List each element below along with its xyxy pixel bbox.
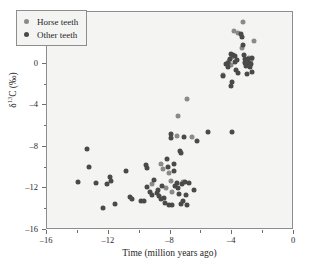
- legend-item-horse-teeth: Horse teeth: [22, 15, 78, 28]
- y-tick-label: –8: [30, 141, 39, 151]
- x-tick-minor: [200, 230, 201, 233]
- x-axis-title: Time (million years ago): [46, 248, 293, 258]
- x-tick-label: –12: [101, 235, 114, 245]
- data-point: [250, 70, 255, 75]
- data-point: [170, 203, 175, 208]
- x-tick-minor: [262, 230, 263, 233]
- legend-marker-icon: [24, 19, 29, 24]
- y-axis-title: δ13C (‰): [6, 40, 18, 140]
- data-point: [220, 74, 225, 79]
- legend-marker-icon: [24, 32, 29, 37]
- data-point: [165, 157, 170, 162]
- data-point: [85, 147, 90, 152]
- data-point: [160, 184, 165, 189]
- data-point: [248, 61, 253, 66]
- y-tick-label: –4: [30, 99, 39, 109]
- data-point: [170, 189, 175, 194]
- x-tick: [293, 230, 294, 234]
- x-tick-label: –4: [227, 235, 236, 245]
- y-tick: [42, 146, 46, 147]
- data-point: [234, 57, 239, 62]
- data-point: [185, 203, 190, 208]
- y-tick-label: 0: [34, 58, 38, 68]
- data-point: [187, 181, 192, 186]
- data-point: [160, 166, 165, 171]
- data-point: [166, 164, 171, 169]
- data-point: [171, 168, 176, 173]
- data-point: [194, 138, 199, 143]
- data-point: [174, 133, 179, 138]
- legend: Horse teeth Other teeth: [16, 10, 87, 46]
- data-point: [178, 151, 183, 156]
- y-tick-minor: [44, 208, 47, 209]
- scatter-plot-figure: –16–12–8–40 40–4–8–12–16 Time (million y…: [0, 0, 311, 270]
- y-tick: [42, 104, 46, 105]
- y-tick-minor: [44, 167, 47, 168]
- data-point: [112, 202, 117, 207]
- data-point: [244, 72, 249, 77]
- data-point: [176, 191, 181, 196]
- data-point: [129, 196, 134, 201]
- data-point: [172, 161, 177, 166]
- data-point: [142, 198, 147, 203]
- data-point: [241, 20, 246, 25]
- y-tick-label: –16: [25, 224, 38, 234]
- data-point: [109, 179, 114, 184]
- x-tick-label: –16: [40, 235, 53, 245]
- y-tick-minor: [44, 84, 47, 85]
- data-point: [168, 179, 173, 184]
- legend-label: Horse teeth: [37, 17, 78, 27]
- data-point: [183, 192, 188, 197]
- y-tick: [42, 229, 46, 230]
- x-tick: [46, 230, 47, 234]
- legend-label: Other teeth: [37, 30, 77, 40]
- data-point: [176, 113, 181, 118]
- data-point: [205, 130, 210, 135]
- data-point: [94, 181, 99, 186]
- y-tick: [42, 63, 46, 64]
- x-tick-minor: [77, 230, 78, 233]
- y-tick-minor: [44, 125, 47, 126]
- data-point: [100, 206, 105, 211]
- x-tick: [231, 230, 232, 234]
- data-point: [224, 61, 229, 66]
- data-point: [241, 43, 246, 48]
- data-point: [191, 187, 196, 192]
- data-point: [144, 165, 149, 170]
- data-point: [86, 164, 91, 169]
- data-point: [75, 180, 80, 185]
- data-point: [185, 97, 190, 102]
- data-point: [236, 71, 241, 76]
- x-tick-label: 0: [291, 235, 295, 245]
- data-point: [123, 168, 128, 173]
- x-tick-label: –8: [165, 235, 174, 245]
- data-point: [230, 130, 235, 135]
- x-tick-minor: [139, 230, 140, 233]
- y-tick-label: –12: [25, 182, 38, 192]
- data-point: [228, 83, 233, 88]
- data-point: [151, 178, 156, 183]
- data-point: [249, 55, 254, 60]
- data-point: [182, 134, 187, 139]
- legend-item-other-teeth: Other teeth: [22, 28, 78, 41]
- y-axis-title-text: δ13C (‰): [8, 72, 18, 108]
- data-point: [169, 135, 174, 140]
- x-tick: [170, 230, 171, 234]
- data-point: [238, 31, 243, 36]
- x-tick: [108, 230, 109, 234]
- data-point: [251, 39, 256, 44]
- y-tick: [42, 187, 46, 188]
